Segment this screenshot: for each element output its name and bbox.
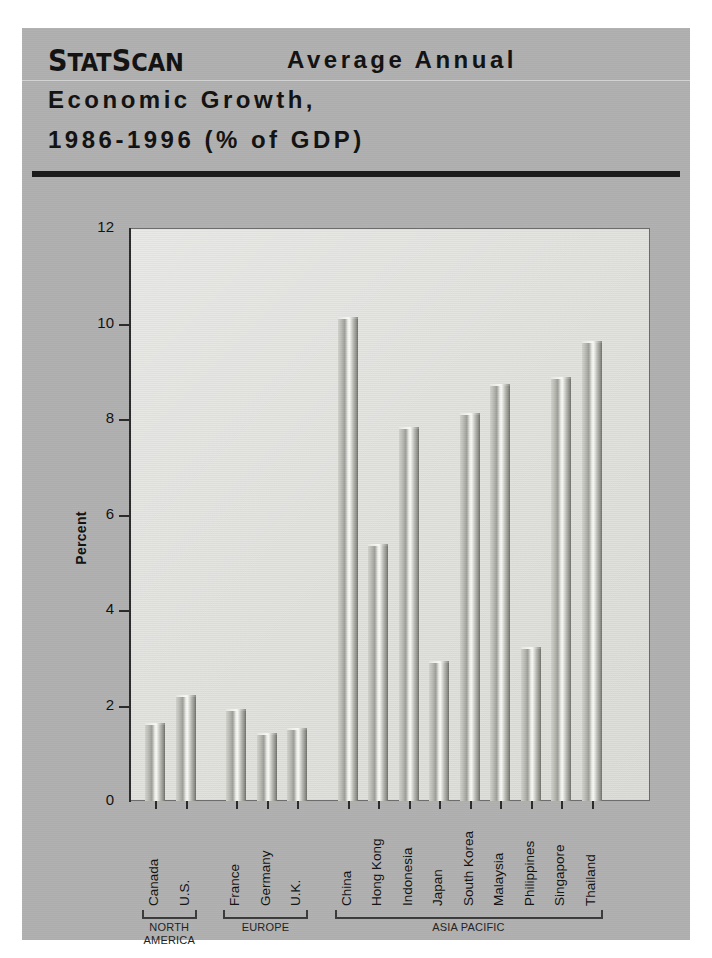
bar-cap (226, 709, 246, 711)
bar (460, 413, 480, 801)
bar (287, 728, 307, 801)
y-tick-mark (119, 706, 130, 708)
x-axis-ticks (130, 801, 650, 810)
region-brackets: NORTH AMERICAEUROPEASIA PACIFIC (130, 910, 670, 956)
x-tick-mark (378, 801, 380, 809)
region-bracket (142, 910, 197, 919)
x-tick-mark (267, 801, 269, 809)
region-label: ASIA PACIFIC (335, 921, 603, 934)
x-axis-label: U.K. (288, 880, 303, 906)
bar (338, 317, 358, 801)
y-tick-label: 4 (106, 600, 114, 617)
bar-cap (287, 728, 307, 730)
bar-cap (460, 413, 480, 415)
y-tick-label: 10 (97, 314, 114, 331)
chart-header: STATSCAN Average Annual Economic Growth,… (22, 28, 690, 163)
x-axis-label: Japan (430, 869, 445, 906)
y-tick-mark (119, 610, 130, 612)
bar (551, 377, 571, 801)
y-tick-label: 12 (97, 218, 114, 235)
region-label: NORTH AMERICA (142, 921, 197, 946)
poster-panel: STATSCAN Average Annual Economic Growth,… (22, 28, 690, 940)
x-tick-mark (409, 801, 411, 809)
x-axis-label: China (339, 871, 354, 906)
title-line-1: Average Annual (287, 46, 517, 74)
x-axis-label: Thailand (583, 854, 598, 906)
x-axis-label: Malaysia (491, 853, 506, 906)
bar (490, 384, 510, 801)
y-tick-mark (119, 515, 130, 517)
x-tick-mark (439, 801, 441, 809)
y-tick-label: 6 (106, 505, 114, 522)
bar (399, 427, 419, 801)
page-root: STATSCAN Average Annual Economic Growth,… (0, 0, 712, 958)
bar-cap (582, 341, 602, 343)
y-tick-label: 0 (106, 791, 114, 808)
bar (145, 723, 165, 801)
x-tick-mark (297, 801, 299, 809)
x-axis-label: Hong Kong (369, 838, 384, 906)
bar-cap (176, 695, 196, 697)
bar (582, 341, 602, 801)
x-axis-label: South Korea (461, 831, 476, 906)
region-bracket (223, 910, 308, 919)
header-hairline (22, 80, 690, 81)
x-tick-mark (561, 801, 563, 809)
x-tick-mark (186, 801, 188, 809)
y-tick-mark (119, 419, 130, 421)
x-axis-label: Philippines (522, 841, 537, 906)
brand-logo: STATSCAN (48, 43, 184, 78)
bar (257, 733, 277, 801)
header-divider (32, 171, 680, 177)
y-tick-label: 2 (106, 696, 114, 713)
x-tick-mark (236, 801, 238, 809)
region-label: EUROPE (223, 921, 308, 934)
bar (226, 709, 246, 801)
region-bracket (335, 910, 603, 919)
x-axis-label: Germany (258, 850, 273, 906)
x-axis-label: Canada (146, 859, 161, 906)
bar-cap (429, 661, 449, 663)
title-line-3: 1986-1996 (% of GDP) (48, 126, 365, 154)
title-line-2: Economic Growth, (48, 86, 316, 114)
bar (368, 544, 388, 801)
bar (176, 695, 196, 801)
bar-cap (257, 733, 277, 735)
x-axis-label: Singapore (552, 844, 567, 906)
bar-cap (490, 384, 510, 386)
bar (429, 661, 449, 801)
y-tick-label: 8 (106, 409, 114, 426)
x-axis-label: Indonesia (400, 847, 415, 906)
bar-cap (521, 647, 541, 649)
bar-cap (551, 377, 571, 379)
x-tick-mark (155, 801, 157, 809)
x-tick-mark (470, 801, 472, 809)
bar-cap (368, 544, 388, 546)
x-axis-label: U.S. (177, 880, 192, 906)
x-tick-mark (500, 801, 502, 809)
bar-cap (399, 427, 419, 429)
bar (521, 647, 541, 801)
bar-cap (145, 723, 165, 725)
bar-cap (338, 317, 358, 319)
chart-figure: Percent 024681012 CanadaU.S.FranceGerman… (22, 188, 690, 940)
bar-series (131, 229, 649, 801)
y-axis-label: Percent (73, 493, 89, 583)
x-axis-labels: CanadaU.S.FranceGermanyU.K.ChinaHong Kon… (130, 810, 650, 906)
x-tick-mark (531, 801, 533, 809)
y-tick-mark (119, 324, 130, 326)
x-axis-label: France (227, 864, 242, 906)
x-tick-mark (592, 801, 594, 809)
x-tick-mark (348, 801, 350, 809)
